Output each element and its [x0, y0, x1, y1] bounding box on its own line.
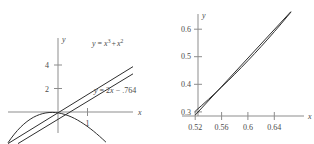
right-ytick-label-06: 0.6 [181, 25, 191, 34]
right-xtick-label-052: 0.52 [188, 123, 202, 132]
cubic-label-y: y [91, 39, 96, 48]
right-curve-tangent [195, 12, 291, 116]
right-y-axis-label: y [201, 11, 206, 20]
right-ytick-label-04: 0.4 [181, 80, 191, 89]
left-y-axis-label: y [61, 35, 66, 44]
cubic-label-plus: + [111, 39, 116, 48]
right-xtick-label-056: 0.56 [215, 123, 229, 132]
tangent-label-var: x [109, 86, 114, 95]
cubic-label-exp2: 2 [121, 38, 124, 44]
tangent-label-intercept: .764 [122, 86, 136, 95]
left-tangent-label: y=2x−.764 [93, 86, 136, 95]
left-ytick-label-4: 4 [45, 61, 49, 70]
cubic-label-eq: = [98, 39, 103, 48]
cubic-label-exp1: 3 [108, 38, 111, 44]
left-curve-cubic [8, 112, 106, 142]
tangent-label-minus: − [116, 86, 121, 95]
right-xtick-label-06: 0.6 [243, 123, 253, 132]
left-x-axis-label: x [137, 108, 142, 117]
right-x-axis-label: x [307, 112, 312, 121]
left-chart-svg: 2 4 1 y x y=x3+x2 y=2x−.764 [0, 0, 158, 144]
left-curve-tangent [8, 67, 133, 144]
right-xtick-label-064: 0.64 [267, 123, 281, 132]
right-chart-svg: 0.3 0.4 0.5 0.6 0.52 0.56 0.6 0.64 y x [158, 0, 314, 144]
right-ytick-label-03: 0.3 [181, 108, 191, 117]
left-chart-panel: 2 4 1 y x y=x3+x2 y=2x−.764 [0, 0, 158, 144]
right-ytick-label-05: 0.5 [181, 52, 191, 61]
right-chart-panel: 0.3 0.4 0.5 0.6 0.52 0.56 0.6 0.64 y x [158, 0, 314, 144]
left-ytick-label-2: 2 [45, 85, 49, 94]
tangent-label-y: y [93, 86, 98, 95]
left-curve-secant [18, 74, 133, 144]
tangent-label-eq: = [100, 86, 105, 95]
two-panel-figure: 2 4 1 y x y=x3+x2 y=2x−.764 [0, 0, 314, 144]
left-cubic-label: y=x3+x2 [91, 38, 124, 48]
